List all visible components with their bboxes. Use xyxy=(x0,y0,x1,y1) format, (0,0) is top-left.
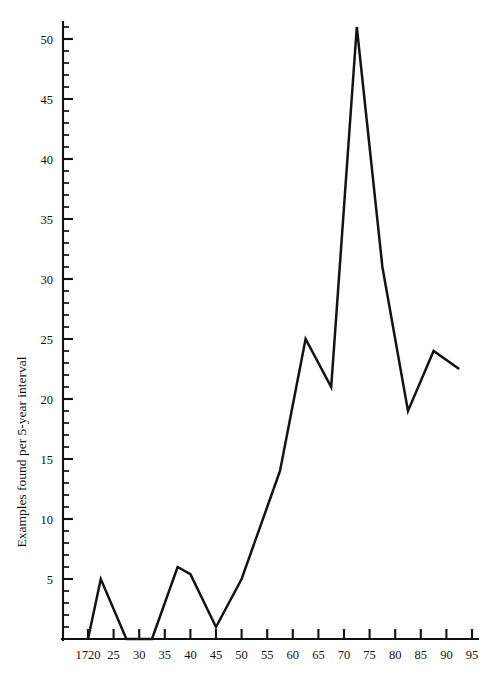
y-axis: 5101520253035404550 xyxy=(41,22,74,640)
y-tick-label: 50 xyxy=(41,33,54,47)
x-tick-label: 25 xyxy=(107,648,120,662)
x-tick-label: 30 xyxy=(133,648,146,662)
x-tick-label: 40 xyxy=(184,648,197,662)
y-tick-label: 30 xyxy=(41,273,54,287)
y-tick-label: 5 xyxy=(47,573,53,587)
plot-area xyxy=(88,27,459,639)
x-tick-label: 75 xyxy=(363,648,376,662)
x-tick-label: 1720 xyxy=(76,648,101,662)
x-tick-label: 90 xyxy=(440,648,453,662)
chart-container: 5101520253035404550 17202530354045505560… xyxy=(0,0,495,682)
y-tick-label: 10 xyxy=(41,513,54,527)
data-series-line xyxy=(88,27,459,639)
x-tick-label: 95 xyxy=(466,648,479,662)
x-tick-label: 70 xyxy=(338,648,351,662)
y-tick-label: 45 xyxy=(41,93,54,107)
y-axis-ticks xyxy=(63,27,73,627)
y-axis-title: Examples found per 5-year interval xyxy=(14,356,29,547)
x-tick-label: 55 xyxy=(261,648,274,662)
y-tick-label: 40 xyxy=(41,153,54,167)
y-tick-label: 15 xyxy=(41,453,54,467)
y-tick-label: 25 xyxy=(41,333,54,347)
x-tick-label: 85 xyxy=(415,648,428,662)
x-tick-label: 35 xyxy=(159,648,172,662)
x-axis-tick-labels: 1720253035404550556065707580859095 xyxy=(76,648,479,662)
x-axis-ticks xyxy=(88,629,472,638)
x-tick-label: 60 xyxy=(287,648,300,662)
y-tick-label: 20 xyxy=(41,393,54,407)
y-tick-label: 35 xyxy=(41,213,54,227)
x-tick-label: 50 xyxy=(235,648,248,662)
line-chart: 5101520253035404550 17202530354045505560… xyxy=(0,0,495,682)
x-tick-label: 65 xyxy=(312,648,325,662)
x-tick-label: 80 xyxy=(389,648,402,662)
y-axis-tick-labels: 5101520253035404550 xyxy=(41,33,54,587)
x-tick-label: 45 xyxy=(210,648,223,662)
